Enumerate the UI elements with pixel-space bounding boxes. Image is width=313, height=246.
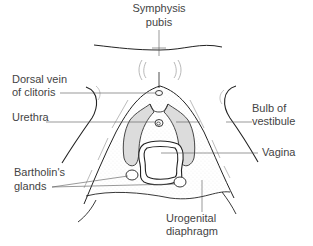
label-dorsal-line1: Dorsal vein	[12, 73, 67, 85]
label-symphysis-line2: pubis	[146, 16, 173, 28]
left-lower-curve	[78, 200, 96, 222]
label-bulb-line2: vestibule	[252, 115, 295, 127]
label-urogenital-line2: diaphragm	[166, 225, 218, 237]
label-bulb-line1: Bulb of	[252, 102, 287, 114]
right-lower-curve	[222, 192, 236, 214]
right-ramus-faint	[220, 90, 224, 104]
label-vagina: Vagina	[262, 146, 296, 158]
label-urethra: Urethra	[12, 111, 50, 123]
left-ramus	[62, 87, 97, 163]
label-urogenital-line1: Urogenital	[166, 212, 216, 224]
symphysis-outline	[94, 45, 222, 50]
label-bartholin-line2: glands	[14, 180, 47, 192]
right-bartholin-gland	[174, 177, 186, 187]
ligament-arcs	[139, 60, 181, 80]
label-dorsal-line2: of clitoris	[12, 86, 56, 98]
perineum-diagram: Symphysis pubis Dorsal vein of clitoris …	[0, 0, 313, 246]
left-bartholin-gland	[126, 170, 138, 180]
label-symphysis-line1: Symphysis	[132, 2, 186, 14]
vagina-inner	[144, 147, 178, 180]
label-bartholin-line1: Bartholin's	[14, 166, 66, 178]
